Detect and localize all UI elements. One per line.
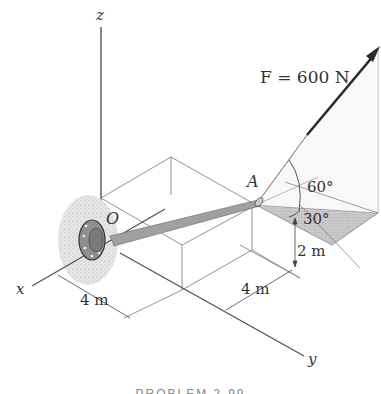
z-axis-label: z xyxy=(95,6,104,24)
y-axis-label: y xyxy=(307,350,317,368)
x-axis-label: x xyxy=(16,280,25,298)
force-label: F = 600 N xyxy=(260,67,350,87)
figure-caption: PROBLEM 2-99 xyxy=(0,387,381,394)
diagram-svg: z x y O A F = 600 N 60° 30° 2 m 4 m 4 m xyxy=(0,0,381,394)
point-a-label: A xyxy=(245,172,259,191)
angle-30-label: 30° xyxy=(303,210,330,228)
dim-2m-label: 2 m xyxy=(297,242,326,260)
angle-60-label: 60° xyxy=(307,178,334,196)
y-axis xyxy=(120,253,304,356)
caption-clip: PROBLEM 2-99 xyxy=(0,386,381,394)
problem-figure: z x y O A F = 600 N 60° 30° 2 m 4 m 4 m … xyxy=(0,0,381,394)
dim-4m-x-label: 4 m xyxy=(80,291,109,309)
origin-label: O xyxy=(106,209,119,228)
dim-4m-y-label: 4 m xyxy=(241,280,270,298)
rod xyxy=(110,200,260,246)
